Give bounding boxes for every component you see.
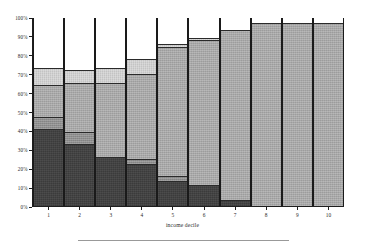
stacked-bar[interactable] [64, 18, 95, 207]
bar-slot [64, 18, 95, 207]
bar-segment[interactable] [34, 18, 63, 69]
bar-series-container [33, 18, 344, 207]
bar-slot [251, 18, 282, 207]
bar-segment[interactable] [96, 158, 125, 207]
bar-segment[interactable] [127, 165, 156, 207]
bar-segment[interactable] [65, 133, 94, 144]
plot-area [32, 18, 344, 207]
x-axis-tick: 5 [157, 207, 188, 221]
bar-segment[interactable] [65, 18, 94, 71]
stacked-bar[interactable] [33, 18, 64, 207]
bar-slot [220, 18, 251, 207]
stacked-bar[interactable] [188, 18, 219, 207]
stacked-bar[interactable] [157, 18, 188, 207]
bar-segment[interactable] [127, 60, 156, 75]
x-axis-tick-label: 2 [78, 212, 81, 218]
x-axis-tick-mark [172, 207, 173, 210]
bar-segment[interactable] [252, 24, 281, 207]
x-axis-tick-label: 4 [140, 212, 143, 218]
bar-segment[interactable] [158, 18, 187, 44]
bar-slot [313, 18, 344, 207]
x-axis-tick-mark [141, 207, 142, 210]
bar-segment[interactable] [96, 84, 125, 158]
bar-slot [157, 18, 188, 207]
x-axis-tick-label: 7 [234, 212, 237, 218]
bar-segment[interactable] [158, 48, 187, 177]
x-axis-tick-mark [328, 207, 329, 210]
x-axis-tick: 8 [251, 207, 282, 221]
x-axis-tick-mark [79, 207, 80, 210]
stacked-bar[interactable] [282, 18, 313, 207]
bar-segment[interactable] [221, 31, 250, 201]
bar-segment[interactable] [221, 18, 250, 31]
x-axis-tick: 3 [95, 207, 126, 221]
x-axis-tick: 9 [282, 207, 313, 221]
chart-figure: 100%90%80%70%60%50%40%30%20%10%0% 123456… [0, 0, 365, 251]
x-axis-tick-label: 5 [172, 212, 175, 218]
stacked-bar[interactable] [95, 18, 126, 207]
y-axis-tick-label: 100% [15, 15, 29, 21]
stacked-bar[interactable] [126, 18, 157, 207]
bar-segment[interactable] [221, 201, 250, 207]
x-axis-tick-label: 10 [326, 212, 331, 218]
bar-slot [188, 18, 219, 207]
y-axis-tick-label: 20% [18, 166, 29, 172]
bar-segment[interactable] [65, 84, 94, 133]
caption-divider [78, 240, 289, 241]
bar-slot [95, 18, 126, 207]
bar-segment[interactable] [314, 24, 343, 207]
bar-segment[interactable] [65, 145, 94, 207]
bar-slot [33, 18, 64, 207]
y-axis-tick-label: 0% [21, 204, 30, 210]
y-axis: 100%90%80%70%60%50%40%30%20%10%0% [0, 18, 32, 207]
x-axis: 12345678910 [33, 207, 344, 221]
y-axis-tick-label: 60% [18, 90, 29, 96]
x-axis-title: income decile [0, 222, 365, 228]
bar-slot [126, 18, 157, 207]
stacked-bar[interactable] [313, 18, 344, 207]
x-axis-tick-label: 6 [203, 212, 206, 218]
bar-segment[interactable] [65, 71, 94, 84]
bar-segment[interactable] [96, 18, 125, 69]
bar-segment[interactable] [158, 182, 187, 207]
y-axis-tick-label: 70% [18, 71, 29, 77]
bar-segment[interactable] [34, 130, 63, 207]
bar-segment[interactable] [189, 18, 218, 39]
y-axis-tick-label: 30% [18, 147, 29, 153]
x-axis-tick-label: 1 [47, 212, 50, 218]
bar-segment[interactable] [34, 69, 63, 86]
y-axis-tick-label: 10% [18, 185, 29, 191]
bar-slot [282, 18, 313, 207]
x-axis-tick: 2 [64, 207, 95, 221]
x-axis-tick: 10 [313, 207, 344, 221]
stacked-bar[interactable] [251, 18, 282, 207]
bar-segment[interactable] [34, 86, 63, 118]
y-axis-tick-label: 40% [18, 128, 29, 134]
x-axis-tick: 7 [220, 207, 251, 221]
x-axis-tick: 6 [188, 207, 219, 221]
bar-segment[interactable] [189, 186, 218, 207]
x-axis-tick-mark [266, 207, 267, 210]
y-axis-tick-label: 90% [18, 34, 29, 40]
y-axis-tick-label: 80% [18, 53, 29, 59]
x-axis-tick-mark [235, 207, 236, 210]
x-axis-tick-mark [297, 207, 298, 210]
y-axis-tick-label: 50% [18, 109, 29, 115]
x-axis-tick: 4 [126, 207, 157, 221]
x-axis-tick-mark [48, 207, 49, 210]
x-axis-tick-label: 3 [109, 212, 112, 218]
bar-segment[interactable] [34, 118, 63, 129]
x-axis-tick-label: 8 [265, 212, 268, 218]
bar-segment[interactable] [96, 69, 125, 84]
bar-segment[interactable] [127, 18, 156, 60]
bar-segment[interactable] [189, 41, 218, 187]
x-axis-tick-mark [204, 207, 205, 210]
stacked-bar[interactable] [220, 18, 251, 207]
x-axis-tick-label: 9 [296, 212, 299, 218]
bar-segment[interactable] [283, 24, 312, 207]
x-axis-tick-mark [110, 207, 111, 210]
bar-segment[interactable] [127, 75, 156, 160]
x-axis-tick: 1 [33, 207, 64, 221]
